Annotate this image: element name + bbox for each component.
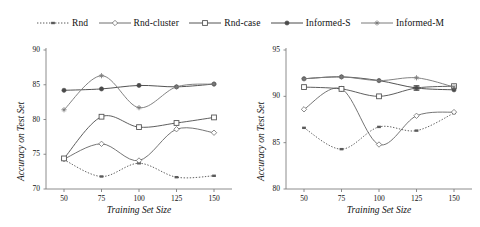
y-axis-tick-label: 90 [24,45,40,54]
y-axis-tick-label: 75 [24,149,40,158]
x-axis-tick-label: 125 [165,194,189,203]
data-point-informed-m [339,74,344,79]
data-point-informed-s [99,87,103,91]
small-filled-square-marker [36,18,70,28]
legend-item-label: Informed-S [306,18,351,28]
series-line-rnd-cluster [64,128,214,161]
data-point-rnd-case [174,121,179,126]
y-axis-tick-label: 80 [264,184,280,193]
y-axis-tick-label: 85 [24,80,40,89]
x-axis-tick-label: 100 [127,194,151,203]
data-point-rnd-case [212,115,217,120]
data-point-rnd [302,127,306,129]
data-point-rnd [340,148,344,150]
y-axis-tick-label: 90 [264,91,280,100]
chart-panel-right: Accuracy on Test Set Training Set Size 8… [240,40,480,227]
legend-item-label: Rnd-cluster [134,18,179,28]
x-axis-tick-label: 50 [292,194,316,203]
asterisk-star-marker [374,20,379,25]
data-point-rnd-case [99,114,104,119]
legend-item-label: Rnd [72,18,88,28]
x-axis-tick-label: 125 [405,194,429,203]
data-point-informed-s [62,88,66,92]
data-point-informed-s [137,83,141,87]
small-filled-square-marker [51,22,55,24]
filled-circle-marker [270,18,304,28]
data-point-informed-s [414,86,418,90]
y-axis-tick-label: 85 [264,138,280,147]
x-axis-tick-label: 50 [52,194,76,203]
data-point-rnd [212,175,216,177]
open-diamond-marker [98,18,132,28]
data-point-rnd-case [339,87,344,92]
asterisk-star-marker [360,18,394,28]
data-point-rnd [377,126,381,128]
series-line-informed-m [64,76,214,110]
data-point-rnd-case [302,85,307,90]
legend-item-label: Informed-M [396,18,444,28]
data-point-rnd-case [377,94,382,99]
data-point-rnd-cluster [376,142,381,147]
legend-item-informed-m[interactable]: Informed-M [360,18,444,28]
y-axis-tick-label: 95 [264,45,280,54]
data-point-rnd-cluster [414,113,419,118]
data-point-informed-m [99,73,104,78]
chart-legend: RndRnd-clusterRnd-caseInformed-SInformed… [30,13,450,33]
data-point-rnd [415,129,419,131]
legend-item-rnd[interactable]: Rnd [36,18,88,28]
data-point-rnd-cluster [99,141,104,146]
data-point-rnd [100,175,104,177]
figure-root: RndRnd-clusterRnd-caseInformed-SInformed… [0,0,480,227]
filled-circle-marker [285,21,289,25]
data-point-rnd [175,176,179,178]
x-axis-tick-label: 100 [367,194,391,203]
y-axis-tick-label: 70 [24,184,40,193]
open-square-marker [188,18,222,28]
legend-item-rnd-case[interactable]: Rnd-case [188,18,260,28]
legend-item-rnd-cluster[interactable]: Rnd-cluster [98,18,179,28]
legend-item-label: Rnd-case [224,18,260,28]
x-axis-tick-label: 150 [442,194,466,203]
legend-item-informed-s[interactable]: Informed-S [270,18,351,28]
data-point-rnd-cluster [211,130,216,135]
open-square-marker [203,21,208,26]
x-axis-tick-label: 75 [330,194,354,203]
data-point-informed-m [211,81,216,86]
data-point-rnd-case [62,156,67,161]
data-point-informed-m [301,76,306,81]
data-point-informed-m [376,78,381,83]
data-point-informed-m [174,84,179,89]
open-diamond-marker [112,20,117,25]
data-point-rnd-case [137,125,142,130]
series-line-rnd-case [64,116,214,159]
x-axis-tick-label: 150 [202,194,226,203]
data-point-informed-m [414,75,419,80]
data-point-rnd-cluster [174,127,179,132]
chart-panel-left: Accuracy on Test Set Training Set Size 7… [0,40,240,227]
data-point-informed-m [136,105,141,110]
y-axis-tick-label: 80 [24,115,40,124]
x-axis-tick-label: 75 [90,194,114,203]
